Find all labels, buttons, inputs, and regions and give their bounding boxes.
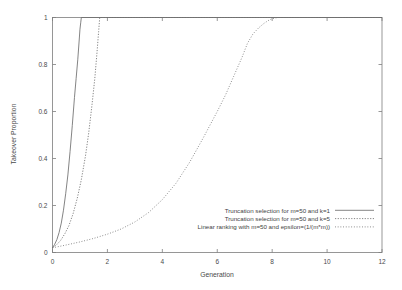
x-tick-label: 0 — [51, 258, 55, 265]
x-tick-label: 6 — [215, 258, 219, 265]
series-line-1 — [53, 18, 383, 248]
legend-label-1: Truncation selection for m=50 and k=5 — [225, 215, 331, 222]
legend-label-2: Linear ranking with m=50 and epsilon=(1/… — [198, 223, 330, 230]
x-tick-label: 2 — [106, 258, 110, 265]
x-tick-label: 8 — [270, 258, 274, 265]
x-tick-label: 4 — [161, 258, 165, 265]
y-tick-label: 0 — [44, 249, 48, 256]
legend-label-0: Truncation selection for m=50 and k=1 — [225, 207, 331, 214]
y-axis-tick-labels: 00.20.40.60.81 — [38, 14, 47, 256]
y-tick-label: 0.8 — [38, 61, 47, 68]
series-lines — [53, 18, 383, 248]
y-tick-label: 0.4 — [38, 155, 47, 162]
series-line-2 — [53, 18, 383, 248]
y-axis-ticks — [53, 18, 383, 253]
chart-figure: 024681012 00.20.40.60.81 Generation Take… — [0, 0, 402, 290]
y-tick-label: 0.2 — [38, 202, 47, 209]
x-tick-label: 12 — [378, 258, 386, 265]
takeover-proportion-line-chart: 024681012 00.20.40.60.81 Generation Take… — [0, 0, 402, 290]
y-tick-label: 0.6 — [38, 108, 47, 115]
y-tick-label: 1 — [44, 14, 48, 21]
plot-frame — [53, 18, 383, 253]
chart-legend: Truncation selection for m=50 and k=1Tru… — [198, 207, 374, 231]
x-axis-ticks — [53, 18, 383, 253]
y-axis-title: Takeover Proportion — [10, 103, 18, 164]
x-axis-tick-labels: 024681012 — [51, 258, 386, 265]
x-tick-label: 10 — [323, 258, 331, 265]
x-axis-title: Generation — [200, 271, 234, 278]
series-line-0 — [53, 18, 383, 248]
